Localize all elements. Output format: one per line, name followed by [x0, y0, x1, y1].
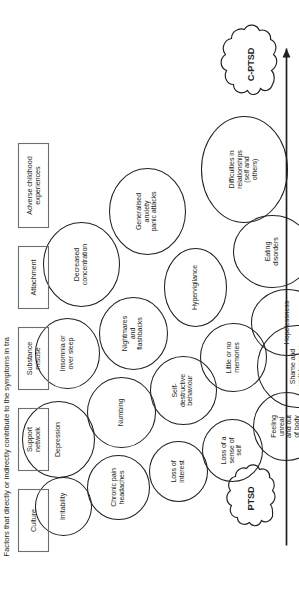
box-attachment: [18, 246, 48, 308]
box-culture: [18, 489, 48, 551]
ellipse-feeling-unreal: [253, 392, 299, 460]
ellipse-difficulties-rel: [201, 116, 287, 222]
symptom-ellipse-cluster: [22, 116, 299, 535]
ellipse-little-no-memories: [200, 323, 266, 391]
severity-continuum-arrow: [282, 48, 290, 545]
ellipse-shame: [257, 325, 299, 407]
box-adverse-childhood: [18, 143, 48, 227]
ellipse-self-destructive: [150, 356, 216, 424]
ellipse-chronic-pain: [87, 455, 149, 519]
ellipse-numbing: [87, 377, 155, 447]
ellipse-insomnia: [35, 318, 99, 388]
factor-box-outlines: [18, 143, 48, 551]
ellipse-generalised-anxiety: [109, 168, 185, 254]
box-substance-misuse: [18, 327, 48, 389]
cloud-cptsd: [221, 25, 277, 94]
ellipse-irritability: [35, 477, 91, 535]
ellipse-depression: [22, 401, 94, 477]
figure-vector-layer: [0, 0, 299, 594]
ellipse-loss-of-sense-self: [202, 419, 262, 481]
ellipse-nightmares: [99, 297, 167, 369]
ellipse-decreased-conc: [43, 222, 119, 306]
figure-caption: Factors that directly or indirectly cont…: [1, 337, 10, 556]
ellipse-eating-disorders: [233, 215, 299, 287]
cloud-ptsd: [226, 464, 274, 525]
ellipse-hypervigilance: [164, 248, 226, 326]
ellipse-loss-of-interest: [149, 441, 207, 501]
rotated-canvas: PTSD C-PTSD Irritability Chronic pain he…: [0, 0, 299, 594]
figure-root: PTSD C-PTSD Irritability Chronic pain he…: [0, 0, 299, 594]
ellipse-hopelessness: [251, 289, 299, 355]
